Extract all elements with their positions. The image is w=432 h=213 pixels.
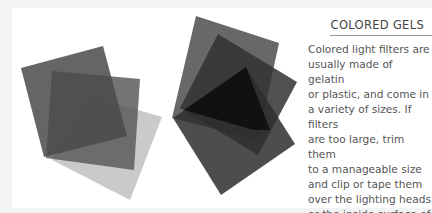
section-heading: COLORED GELS [330,18,432,36]
sidebar-text-block: COLORED GELS Colored light filters are u… [308,18,432,213]
body-paragraph: Colored light filters are usually made o… [308,42,432,213]
gel-filters-illustration [0,0,300,213]
